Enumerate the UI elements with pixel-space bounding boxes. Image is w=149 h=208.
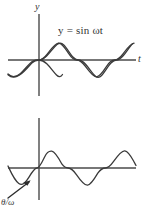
chart-unshifted-sine: y t y = sin ωt: [0, 0, 149, 104]
chart-shifted-svg: [0, 104, 149, 208]
sine-wave-figure: y t y = sin ωt y t y = sin(ωt + θ) θ/ω: [0, 0, 149, 208]
phase-shift-annotation-label: θ/ω: [1, 197, 14, 207]
equation-unshifted: y = sin ωt: [58, 24, 103, 36]
chart-phase-shifted-sine: y t y = sin(ωt + θ): [0, 104, 149, 208]
y-axis-label-top: y: [35, 1, 39, 12]
t-axis-label-top: t: [138, 53, 141, 64]
chart-unshifted-svg: [0, 0, 149, 104]
